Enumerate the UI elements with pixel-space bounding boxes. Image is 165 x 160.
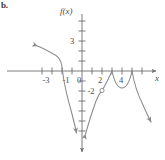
graph-figure: b. bbox=[0, 0, 165, 160]
x-axis-label: x bbox=[154, 73, 159, 83]
curve-branch-open-to-axis bbox=[103, 71, 113, 90]
x-tick-label-zero: 0 bbox=[77, 75, 81, 85]
curve-branch-rising-to-open-point bbox=[86, 91, 103, 134]
x-tick-labels: -3 -1 0 2 4 bbox=[42, 75, 123, 85]
function-graph-svg: f(x) x -3 -1 0 2 4 3 -2 bbox=[0, 0, 165, 160]
x-tick-label-2: 2 bbox=[98, 75, 102, 85]
open-circle-marker bbox=[100, 88, 104, 92]
axes-group bbox=[7, 14, 156, 152]
curve-branch-left bbox=[38, 46, 63, 71]
x-tick-label-4: 4 bbox=[119, 75, 124, 85]
y-tick-label-neg2: -2 bbox=[87, 86, 94, 96]
y-axis-label: f(x) bbox=[60, 6, 73, 16]
y-tick-label-3: 3 bbox=[70, 36, 74, 46]
x-tick-label-neg3: -3 bbox=[42, 75, 49, 85]
curve-branch-descending-right bbox=[132, 71, 151, 122]
